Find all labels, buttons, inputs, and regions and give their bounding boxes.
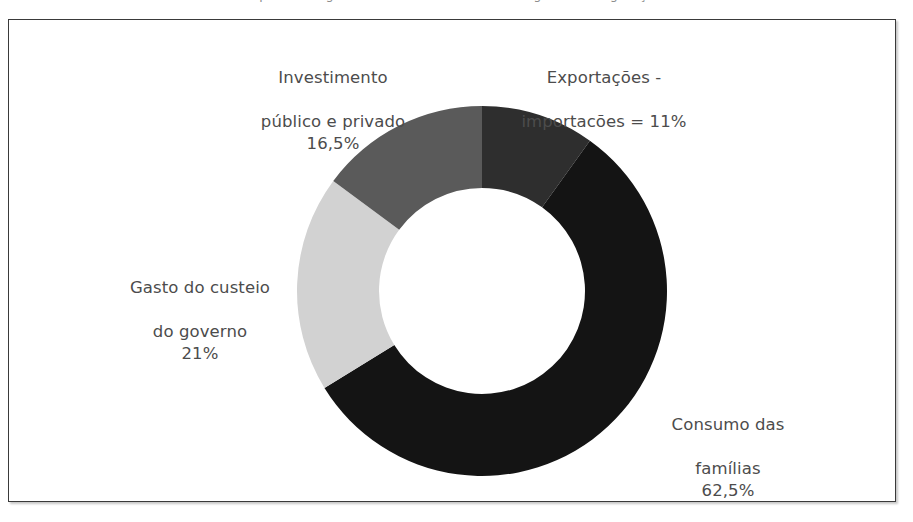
slice-label-consumo-line1: Consumo das [672, 415, 785, 434]
slice-value-gasto: 21% [101, 343, 299, 365]
slice-label-gasto-line2: do governo [153, 322, 247, 341]
slice-value-consumo: 62,5% [623, 480, 833, 502]
slice-label-consumo: Consumo das famílias 62,5% [623, 392, 833, 522]
slice-label-gasto: Gasto do custeio do governo 21% [101, 255, 299, 387]
slice-value-investimento: 16,5% [228, 133, 438, 155]
slice-label-investimento-line1: Investimento [278, 68, 387, 87]
figure-frame: Investimento público e privado 16,5% Exp… [8, 19, 896, 502]
screenshot-root: A partir dos gastos, o PIB brasileiro te… [0, 0, 913, 522]
slice-label-investimento: Investimento público e privado 16,5% [228, 45, 438, 177]
slice-label-investimento-line2: público e privado [261, 112, 405, 131]
slice-label-gasto-line1: Gasto do custeio [130, 278, 270, 297]
slice-label-consumo-line2: famílias [695, 459, 760, 478]
cut-off-caption-text: A partir dos gastos, o PIB brasileiro te… [0, 0, 913, 3]
slice-label-exportacoes: Exportações - importacões = 11% [495, 45, 713, 133]
slice-label-exportacoes-line1: Exportações - [547, 68, 662, 87]
slice-label-exportacoes-line2: importacões = 11% [521, 112, 686, 131]
